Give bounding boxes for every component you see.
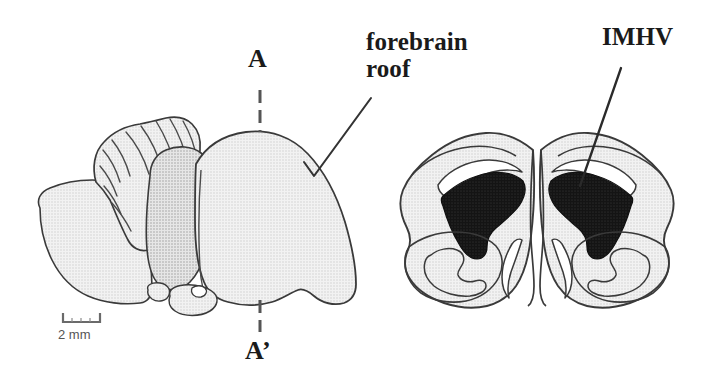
anatomical-figure: forebrain roof IMHV A A’ 2 mm	[0, 0, 718, 389]
coronal-section-panel	[400, 133, 673, 308]
optic-chiasm-outline	[192, 286, 207, 297]
forebrain-roof-label: forebrain roof	[366, 28, 468, 82]
sagittal-brain-panel	[38, 117, 356, 315]
scale-bar	[63, 313, 100, 322]
section-plane-label-a-prime: A’	[245, 337, 271, 365]
forebrain-outline	[195, 131, 356, 305]
section-plane-label-a: A	[248, 45, 267, 73]
figure-drawing-canvas	[0, 0, 718, 389]
imhv-label: IMHV	[602, 23, 673, 50]
ventral-lobe-outline	[148, 283, 170, 301]
scale-bar-label: 2 mm	[58, 327, 91, 342]
